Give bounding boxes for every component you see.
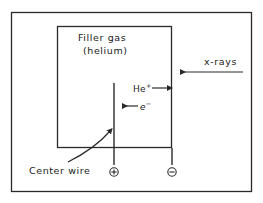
electron-label: e− [140, 101, 151, 113]
helium-ion-symbol: He [133, 84, 146, 94]
filler-gas-species-label: (helium) [83, 46, 128, 56]
filler-gas-label: Filler gas [78, 33, 126, 43]
xrays-label: x-rays [204, 57, 237, 67]
helium-ion-label: He+ [133, 83, 151, 95]
ionization-chamber-diagram: Filler gas (helium) x-rays He+ e− Center… [0, 0, 263, 203]
electron-charge: − [146, 100, 151, 108]
center-wire-pointer [68, 131, 110, 162]
helium-ion-charge: + [146, 82, 151, 90]
anode-terminal [110, 168, 118, 176]
center-wire-label: Center wire [29, 166, 91, 176]
cathode-terminal [168, 168, 176, 176]
